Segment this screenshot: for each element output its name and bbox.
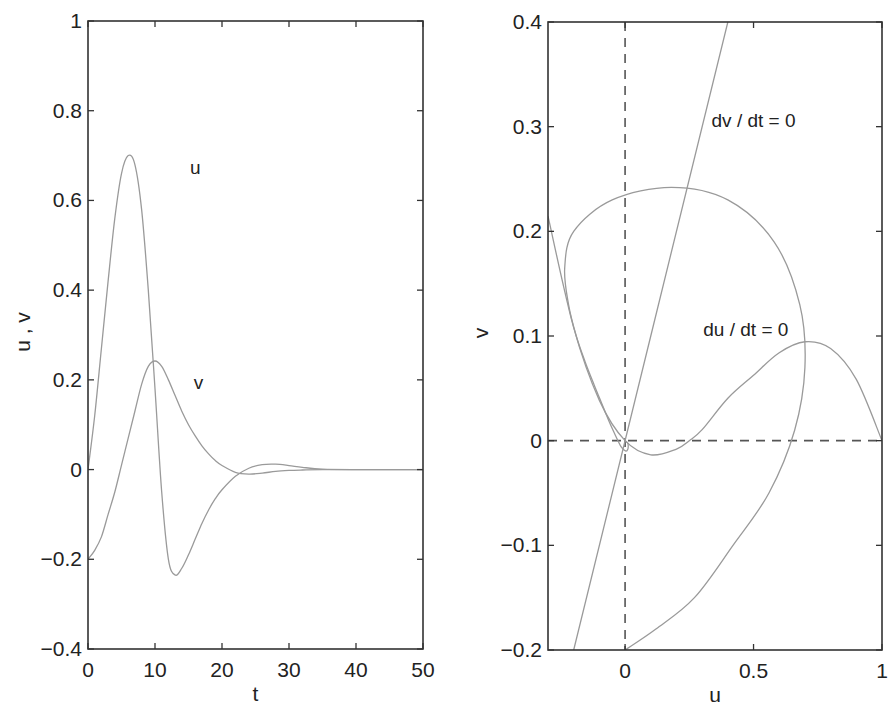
y-tick-label: 0.1 bbox=[513, 324, 542, 347]
y-tick-label: 0.2 bbox=[53, 368, 82, 391]
annotation-label: v bbox=[194, 372, 204, 393]
y-tick-label: 0.3 bbox=[513, 115, 542, 138]
y-axis-label: v bbox=[469, 327, 492, 338]
y-axis-label: u , v bbox=[11, 312, 34, 352]
y-tick-label: −0.2 bbox=[501, 638, 542, 661]
x-tick-label: 50 bbox=[411, 658, 434, 681]
y-tick-label: 1 bbox=[70, 9, 82, 32]
x-tick-label: 0.5 bbox=[739, 659, 768, 682]
y-tick-label: 0 bbox=[70, 458, 82, 481]
y-tick-label: −0.1 bbox=[501, 533, 542, 556]
x-tick-label: 40 bbox=[344, 658, 367, 681]
x-tick-label: 1 bbox=[876, 659, 888, 682]
y-tick-label: −0.4 bbox=[41, 637, 83, 660]
x-tick-label: 20 bbox=[210, 658, 233, 681]
x-axis-label: t bbox=[253, 682, 259, 705]
series-u bbox=[88, 155, 423, 575]
y-tick-label: 0 bbox=[530, 429, 542, 452]
y-tick-label: 0.2 bbox=[513, 219, 542, 242]
phase-plane-plot: 00.51−0.2−0.100.10.20.30.4uvdv / dt = 0d… bbox=[469, 10, 888, 706]
y-tick-label: 0.6 bbox=[53, 188, 82, 211]
x-axis-label: u bbox=[709, 683, 721, 706]
x-tick-label: 10 bbox=[143, 658, 166, 681]
y-tick-label: 0.4 bbox=[513, 10, 543, 33]
x-tick-label: 30 bbox=[277, 658, 300, 681]
y-tick-label: 0.4 bbox=[53, 278, 83, 301]
axes-frame bbox=[88, 21, 423, 649]
annotation-label: u bbox=[190, 157, 201, 178]
series-trajectory bbox=[565, 187, 806, 650]
figure: 01020304050−0.4−0.200.20.40.60.81tu , vu… bbox=[0, 0, 888, 718]
series-v bbox=[88, 361, 423, 559]
annotation-label: dv / dt = 0 bbox=[712, 110, 796, 131]
y-tick-label: 0.8 bbox=[53, 99, 82, 122]
x-tick-label: 0 bbox=[619, 659, 631, 682]
annotation-label: du / dt = 0 bbox=[703, 319, 788, 340]
x-tick-label: 0 bbox=[82, 658, 94, 681]
y-tick-label: −0.2 bbox=[41, 547, 82, 570]
time-series-plot: 01020304050−0.4−0.200.20.40.60.81tu , vu… bbox=[11, 9, 435, 705]
